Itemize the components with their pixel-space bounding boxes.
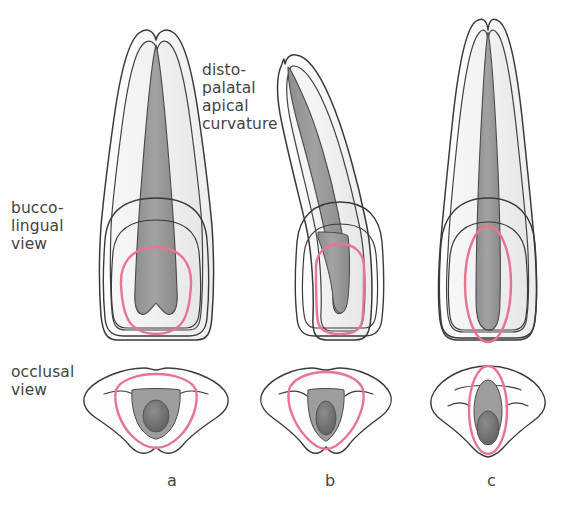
panel-a-occlusal-view — [84, 368, 228, 453]
bucco-lingual-view-label: bucco- lingual view — [11, 200, 64, 254]
panel-letter-a: a — [167, 471, 177, 490]
panel-b-occlusal-view — [261, 368, 391, 453]
panel-c-occlusal-view — [431, 366, 545, 457]
disto-palatal-apical-curvature-label: disto- palatal apical curvature — [202, 62, 278, 134]
occlusal-c-canal-orifice — [477, 411, 499, 445]
dental-figure: bucco- lingual view occlusal view disto-… — [0, 0, 563, 509]
panel-letter-b: b — [325, 471, 335, 490]
dental-illustration-svg — [0, 0, 563, 509]
occlusal-view-label: occlusal view — [11, 364, 74, 400]
panel-c-bucco-lingual-view — [439, 19, 537, 342]
panel-letter-c: c — [487, 471, 496, 490]
occlusal-a-canal-orifice — [143, 400, 169, 432]
panel-b-bucco-lingual-view — [278, 55, 384, 340]
panel-a-bucco-lingual-view — [100, 30, 214, 340]
occlusal-b-canal-orifice — [316, 401, 336, 435]
